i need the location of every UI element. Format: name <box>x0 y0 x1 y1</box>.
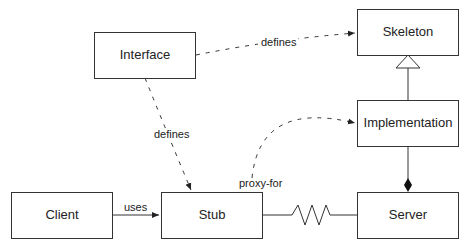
interface-label: Interface <box>120 47 171 62</box>
edge-server-implementation <box>404 146 412 192</box>
zigzag-connection-line <box>263 205 357 225</box>
edge-interface-skeleton: defines <box>196 33 355 55</box>
edge-stub-implementation: proxy-for <box>239 118 355 189</box>
stub-label: Stub <box>199 207 226 222</box>
implementation-label: Implementation <box>364 115 453 130</box>
client-label: Client <box>45 207 79 222</box>
edge-client-stub: uses <box>112 201 159 215</box>
edge-label-defines-skeleton: defines <box>261 36 297 48</box>
node-server[interactable]: Server <box>358 193 459 239</box>
edge-label-proxy-for: proxy-for <box>239 177 283 189</box>
node-interface[interactable]: Interface <box>95 33 196 79</box>
edge-label-defines-stub: defines <box>154 128 190 140</box>
dashed-curved-arrow-line <box>252 118 355 178</box>
edge-stub-server <box>263 205 357 225</box>
node-stub[interactable]: Stub <box>162 193 263 239</box>
diagram-canvas: defines defines proxy-for uses Interface… <box>0 0 469 250</box>
generalization-triangle-icon <box>396 55 420 68</box>
edge-implementation-skeleton <box>396 55 420 100</box>
edge-label-uses: uses <box>124 201 148 213</box>
node-client[interactable]: Client <box>12 193 113 239</box>
node-implementation[interactable]: Implementation <box>358 101 459 147</box>
server-label: Server <box>389 207 428 222</box>
edge-interface-stub: defines <box>145 78 193 190</box>
node-skeleton[interactable]: Skeleton <box>358 10 459 56</box>
skeleton-label: Skeleton <box>383 24 434 39</box>
composition-diamond-icon <box>404 178 412 192</box>
